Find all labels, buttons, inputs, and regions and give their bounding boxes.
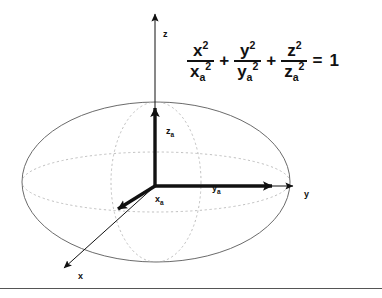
equation-term-x-numerator: x2	[190, 42, 211, 60]
figure-canvas: z y x xa ya za x2 xa2 + y2 ya2 + z2 za2 …	[0, 0, 382, 298]
semi-axis-xa	[118, 186, 155, 209]
y-axis-label: y	[304, 189, 309, 199]
x-axis-label: x	[78, 271, 83, 281]
ellipsoid-equation: x2 xa2 + y2 ya2 + z2 za2 = 1	[186, 42, 339, 80]
equation-right-hand-side: 1	[329, 52, 338, 69]
equation-term-y-denominator: ya2	[234, 62, 261, 80]
equation-term-x-denominator: xa2	[187, 62, 214, 80]
equation-plus-2: +	[266, 52, 276, 69]
semi-axis-label-za: za	[166, 126, 175, 138]
z-axis-label: z	[163, 29, 168, 39]
equation-term-z: z2 za2	[281, 42, 307, 80]
equation-term-z-numerator: z2	[284, 42, 304, 60]
x-axis-line	[64, 186, 155, 268]
equation-term-y: y2 ya2	[234, 42, 261, 80]
semi-axis-label-xa: xa	[155, 194, 164, 206]
equation-equals-sign: =	[312, 52, 322, 69]
equation-plus-1: +	[219, 52, 229, 69]
bottom-divider	[0, 288, 382, 289]
equation-term-z-denominator: za2	[281, 62, 307, 80]
equation-term-y-numerator: y2	[237, 42, 258, 60]
equation-term-x: x2 xa2	[187, 42, 214, 80]
